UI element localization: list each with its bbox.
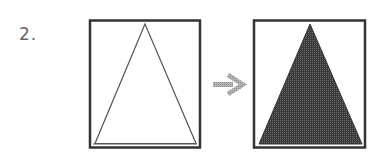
right-arrow-icon (213, 75, 243, 94)
before-figure (90, 21, 200, 148)
before-frame (90, 21, 200, 148)
diagram-canvas (0, 0, 384, 158)
after-figure (254, 21, 365, 148)
